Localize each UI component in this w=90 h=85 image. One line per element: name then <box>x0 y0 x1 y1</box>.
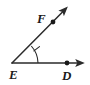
point-d-dot <box>65 61 70 66</box>
point-label-d: D <box>61 68 72 83</box>
point-label-f: F <box>36 11 46 26</box>
point-f-dot <box>51 20 56 25</box>
geometry-figure: E D F <box>0 0 90 85</box>
point-label-e: E <box>8 67 18 82</box>
angle-tick-mark <box>34 47 40 51</box>
angle-diagram-svg: E D F <box>0 0 90 85</box>
